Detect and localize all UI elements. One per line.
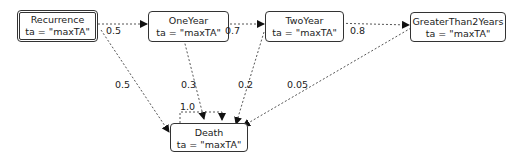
node-name: GreaterThan2Years <box>411 16 505 28</box>
node-attr: ta = "maxTA" <box>149 27 228 39</box>
edge-label-twoyear-death: 0.2 <box>238 79 253 90</box>
node-attr: ta = "maxTA" <box>411 28 505 40</box>
edge-label-gt2-death: 0.05 <box>287 79 308 90</box>
node-twoyear[interactable]: TwoYear ta = "maxTA" <box>265 11 344 42</box>
edge-label-twoyear-gt2: 0.8 <box>350 25 365 36</box>
node-name: TwoYear <box>266 15 343 27</box>
node-attr: ta = "maxTA" <box>171 139 247 151</box>
edge-label-recurrence-death: 0.5 <box>115 79 130 90</box>
edge-label-recurrence-oneyear: 0.5 <box>106 25 121 36</box>
node-death[interactable]: Death ta = "maxTA" <box>170 123 248 152</box>
edge-death-self-loop <box>180 112 222 123</box>
edge-twoyear-death <box>236 32 264 124</box>
node-attr: ta = "maxTA" <box>266 27 343 39</box>
edge-label-oneyear-twoyear: 0.7 <box>225 25 240 36</box>
edge-label-oneyear-death: 0.3 <box>181 79 196 90</box>
edge-label-death-self-loop: 1.0 <box>180 101 195 112</box>
node-name: OneYear <box>149 15 228 27</box>
edge-recurrence-death <box>101 30 169 132</box>
node-name: Recurrence <box>20 14 95 26</box>
node-attr: ta = "maxTA" <box>20 26 95 38</box>
edge-gt2-death <box>243 28 411 126</box>
node-recurrence[interactable]: Recurrence ta = "maxTA" <box>17 10 98 42</box>
node-name: Death <box>171 127 247 139</box>
node-oneyear[interactable]: OneYear ta = "maxTA" <box>148 11 229 42</box>
node-greaterthan2years[interactable]: GreaterThan2Years ta = "maxTA" <box>410 12 506 42</box>
